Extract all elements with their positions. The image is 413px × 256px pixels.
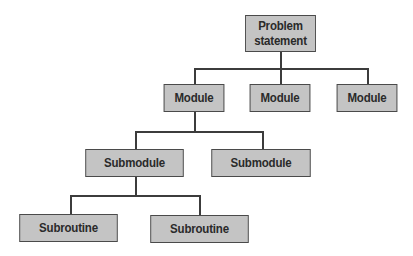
node-label: Subroutine (39, 221, 98, 236)
node-subroutine-2: Subroutine (150, 215, 248, 243)
node-module-2: Module (250, 84, 311, 112)
connector-submodule-2 (262, 131, 264, 149)
connector-submodules-bus (135, 131, 263, 133)
connector-subroutines-bus (70, 195, 200, 197)
connector-subroutine-2 (199, 195, 201, 215)
connector-module-1 (194, 68, 196, 84)
node-label: Module (174, 91, 213, 106)
connector-module-3 (367, 68, 369, 84)
connector-submodule-1 (135, 131, 137, 149)
node-submodule-2: Submodule (211, 149, 310, 177)
connector-module-1-down (194, 112, 196, 132)
node-label: Submodule (104, 156, 165, 171)
node-submodule-1: Submodule (85, 149, 183, 177)
node-module-3: Module (337, 84, 398, 112)
node-label-line1: Problem (258, 19, 303, 34)
node-module-1: Module (164, 84, 225, 112)
connector-root-down (280, 52, 282, 69)
connector-submodule-1-down (135, 177, 137, 196)
node-label: Module (347, 91, 386, 106)
node-label: Module (260, 91, 299, 106)
node-problem-statement: Problem statement (245, 15, 316, 52)
node-subroutine-1: Subroutine (19, 214, 117, 242)
node-label-line2: statement (254, 34, 307, 49)
hierarchy-diagram: Problem statement Module Module Module S… (0, 0, 413, 256)
node-label: Subroutine (170, 222, 229, 237)
node-label: Submodule (231, 156, 292, 171)
connector-subroutine-1 (70, 195, 72, 214)
connector-module-2 (280, 68, 282, 84)
